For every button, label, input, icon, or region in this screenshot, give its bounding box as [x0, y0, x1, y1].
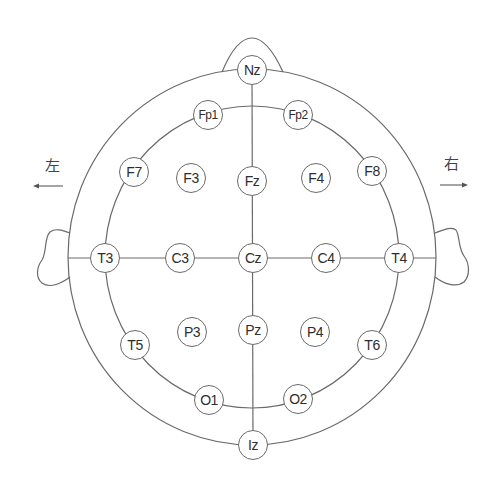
electrode-o2: O2 — [283, 384, 313, 414]
electrode-p3: P3 — [177, 317, 207, 347]
electrode-cz: Cz — [238, 243, 268, 273]
left-direction-label: 左 — [37, 154, 67, 175]
electrode-f8: F8 — [357, 156, 387, 186]
electrode-f3: F3 — [176, 163, 206, 193]
electrode-o1: O1 — [194, 385, 224, 415]
electrode-fp1: Fp1 — [193, 100, 223, 130]
electrode-f4: F4 — [301, 163, 331, 193]
electrode-nz: Nz — [237, 55, 267, 85]
left-ear-outline — [38, 230, 71, 286]
electrode-fz: Fz — [237, 166, 267, 196]
electrode-t4: T4 — [384, 243, 414, 273]
electrode-t6: T6 — [357, 330, 387, 360]
electrode-iz: Iz — [238, 430, 268, 460]
electrode-p4: P4 — [300, 317, 330, 347]
electrode-c4: C4 — [311, 243, 341, 273]
right-ear-outline — [435, 228, 469, 285]
electrode-t5: T5 — [120, 330, 150, 360]
electrode-fp2: Fp2 — [283, 100, 313, 130]
electrode-c3: C3 — [165, 243, 195, 273]
eeg-10-20-diagram: 左 右 NzFp1Fp2F7F3FzF4F8T3C3CzC4T4T5P3PzP4… — [0, 0, 497, 487]
electrode-pz: Pz — [238, 315, 268, 345]
electrode-f7: F7 — [119, 157, 149, 187]
right-direction-label: 右 — [436, 152, 466, 173]
electrode-t3: T3 — [90, 243, 120, 273]
